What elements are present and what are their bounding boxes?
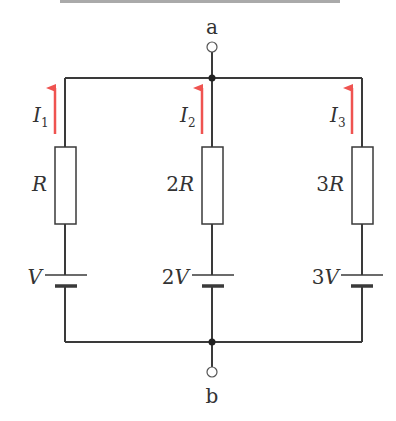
resistor-label-2r: 2R [166, 172, 194, 196]
terminal-b [207, 367, 217, 377]
circuit-diagram: a b I1 I2 I3 R 2R 3R V 2V 3V [0, 0, 396, 421]
resistor-r [55, 147, 76, 224]
terminal-a [207, 42, 217, 52]
battery-label-2v: 2V [162, 265, 192, 289]
battery-2v [192, 275, 234, 286]
battery-v [45, 275, 87, 286]
terminal-b-label: b [206, 384, 219, 408]
current-label-1: I1 [32, 103, 49, 130]
battery-3v [341, 275, 383, 286]
current-label-2: I2 [179, 103, 196, 130]
resistor-label-r: R [31, 172, 47, 196]
battery-label-3v: 3V [312, 265, 342, 289]
resistor-3r [352, 147, 373, 224]
resistor-label-3r: 3R [316, 172, 344, 196]
terminal-a-label: a [206, 15, 218, 39]
cropped-header-text [60, 0, 340, 3]
junction-top [209, 75, 216, 82]
resistor-2r [202, 147, 223, 224]
junction-bottom [209, 339, 216, 346]
battery-label-v: V [28, 265, 45, 289]
current-label-3: I3 [329, 103, 346, 130]
